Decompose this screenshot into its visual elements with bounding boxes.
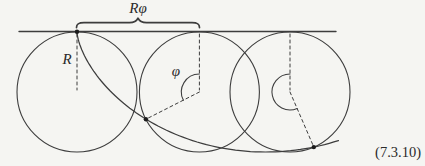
cycloid-diagram: Rφ R φ (7.3.10) xyxy=(0,0,425,166)
arc-length-brace xyxy=(77,18,200,27)
cycloid-curve xyxy=(77,32,338,152)
angle-arc-circle-2 xyxy=(181,74,199,100)
radius-label: R xyxy=(61,51,71,67)
equation-number: (7.3.10) xyxy=(375,144,421,161)
angle-label: φ xyxy=(172,63,180,79)
angle-arc-circle-3 xyxy=(272,74,297,110)
arc-length-label: Rφ xyxy=(128,0,146,16)
cycloid-figure: Rφ R φ (7.3.10) xyxy=(0,0,425,166)
radius-to-trace-point-dashed-circle-2 xyxy=(148,92,200,118)
trace-point-circle-2 xyxy=(144,117,148,121)
trace-point-circle-3 xyxy=(312,145,316,149)
trace-point-cusp xyxy=(75,30,79,34)
radius-to-trace-point-dashed-circle-3 xyxy=(290,92,313,145)
rolling-circle-position-1 xyxy=(17,32,137,152)
